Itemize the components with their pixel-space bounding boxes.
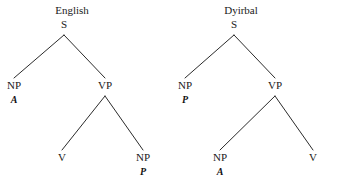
node-label: S <box>231 19 237 31</box>
node-label: NP <box>178 80 192 92</box>
node-label: NP <box>136 152 150 164</box>
tree-edge-dyirbal-s-to-vp <box>234 35 275 78</box>
tree-title-english: English <box>55 5 89 17</box>
tree-node-english-np-object: NPP <box>136 152 150 177</box>
node-role-annotation: P <box>178 95 192 106</box>
tree-node-dyirbal-np-object: NPA <box>213 152 227 177</box>
tree-node-english-np-subject: NPA <box>7 80 21 105</box>
node-role-annotation: A <box>7 95 21 106</box>
tree-edge-dyirbal-s-to-np <box>185 35 234 78</box>
tree-title-dyirbal: Dyirbal <box>224 5 258 17</box>
node-label: S <box>61 19 67 31</box>
node-role-annotation: P <box>136 167 150 178</box>
tree-node-dyirbal-vp: VP <box>268 80 282 92</box>
tree-node-dyirbal-s: S <box>231 19 237 31</box>
tree-edge-english-s-to-vp <box>64 35 105 78</box>
tree-edge-dyirbal-vp-to-v <box>275 96 313 150</box>
tree-edge-english-vp-to-v <box>62 96 105 150</box>
node-label: NP <box>7 80 21 92</box>
node-label: VP <box>268 80 282 92</box>
tree-node-english-s: S <box>61 19 67 31</box>
tree-node-dyirbal-v: V <box>309 152 317 164</box>
tree-edge-english-vp-to-np <box>105 96 143 150</box>
tree-node-english-v: V <box>58 152 66 164</box>
tree-edges-layer <box>0 0 337 186</box>
tree-node-dyirbal-np-subject: NPP <box>178 80 192 105</box>
syntax-tree-figure: EnglishSNPAVPVNPPDyirbalSNPPVPNPAV <box>0 0 337 186</box>
node-role-annotation: A <box>213 167 227 178</box>
tree-edge-dyirbal-vp-to-np <box>220 96 275 150</box>
node-label: VP <box>98 80 112 92</box>
node-label: NP <box>213 152 227 164</box>
tree-edge-english-s-to-np <box>14 35 64 78</box>
tree-node-english-vp: VP <box>98 80 112 92</box>
node-label: V <box>309 152 317 164</box>
node-label: V <box>58 152 66 164</box>
